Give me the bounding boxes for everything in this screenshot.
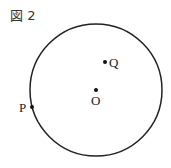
- point-label-o: O: [91, 93, 100, 108]
- point-o: O: [91, 88, 100, 108]
- point-q: Q: [103, 55, 119, 70]
- point-label-q: Q: [109, 55, 119, 70]
- circle-diagram: Q O P: [0, 0, 171, 168]
- point-label-p: P: [19, 100, 26, 115]
